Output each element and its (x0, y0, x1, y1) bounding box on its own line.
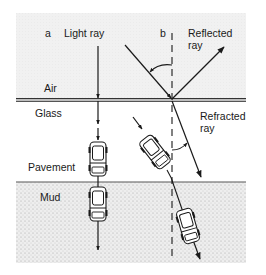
reflected-ray-label-line1: Reflected (188, 28, 232, 39)
air-glass-boundary (16, 99, 246, 102)
diagram-graphics (0, 0, 266, 275)
panel-b-label: b (160, 28, 166, 39)
refracted-ray-label-line2: ray (200, 123, 215, 134)
car-pavement-a (89, 142, 108, 176)
refraction-diagram: a Light ray b Reflected ray Air Glass Re… (0, 0, 266, 275)
reflected-ray-label-line2: ray (188, 40, 203, 51)
air-label: Air (44, 83, 57, 94)
car-mud-a (89, 187, 108, 221)
pavement-label: Pavement (28, 162, 75, 173)
light-ray-label: Light ray (64, 28, 104, 39)
mud-label: Mud (40, 192, 60, 203)
refracted-ray-label-line1: Refracted (200, 111, 246, 122)
panel-a-label: a (45, 28, 51, 39)
glass-label: Glass (35, 108, 62, 119)
